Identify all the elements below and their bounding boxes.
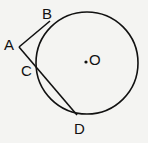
label-b: B xyxy=(42,5,52,22)
label-c: C xyxy=(21,62,32,79)
center-point xyxy=(84,60,87,63)
secant-segment-ad xyxy=(19,47,77,115)
geometry-diagram: A B C D O xyxy=(0,0,148,143)
label-o: O xyxy=(89,51,101,68)
label-d: D xyxy=(74,120,85,137)
label-a: A xyxy=(4,36,14,53)
